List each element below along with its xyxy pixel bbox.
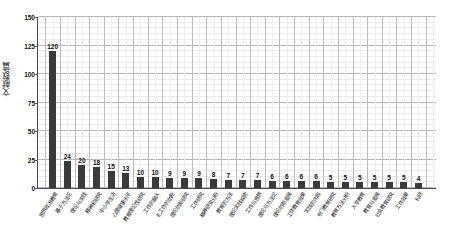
gridline-minor-horizontal <box>38 107 436 108</box>
gridline-major-vertical <box>206 17 207 188</box>
bar[interactable] <box>239 180 246 188</box>
bar-value-label: 15 <box>108 163 115 170</box>
y-tick-mark <box>35 74 38 75</box>
gridline-minor-horizontal <box>38 96 436 97</box>
bar-chart: 文献数/篇 0255075100125150 12024201815131010… <box>0 0 461 252</box>
gridline-minor-vertical <box>404 17 405 188</box>
bar-value-label: 6 <box>270 173 274 180</box>
gridline-major-vertical <box>367 17 368 188</box>
bar[interactable] <box>93 167 100 188</box>
bar-value-label: 13 <box>122 165 129 172</box>
y-axis-tick-labels: 0255075100125150 <box>16 0 35 252</box>
gridline-minor-horizontal <box>38 84 436 85</box>
gridline-minor-vertical <box>155 17 156 188</box>
gridline-major-vertical <box>426 17 427 188</box>
y-tick-mark <box>35 17 38 18</box>
bar[interactable] <box>108 171 115 188</box>
gridline-minor-horizontal <box>38 90 436 91</box>
gridline-major-horizontal <box>38 130 436 131</box>
bar[interactable] <box>64 161 71 188</box>
bar-value-label: 9 <box>168 170 172 177</box>
gridline-major-vertical <box>382 17 383 188</box>
gridline-minor-vertical <box>345 17 346 188</box>
y-tick-label: 75 <box>19 99 35 106</box>
x-category-label: 思想政治教育 <box>37 191 58 219</box>
gridline-minor-vertical <box>272 17 273 188</box>
bar[interactable] <box>313 181 320 188</box>
bar[interactable] <box>195 178 202 188</box>
bar-value-label: 5 <box>329 174 333 181</box>
gridline-major-horizontal <box>38 102 436 103</box>
gridline-major-horizontal <box>38 73 436 74</box>
gridline-minor-horizontal <box>38 113 436 114</box>
bar-value-label: 9 <box>183 170 187 177</box>
bar[interactable] <box>342 182 349 188</box>
gridline-major-vertical <box>89 17 90 188</box>
gridline-major-vertical <box>309 17 310 188</box>
gridline-major-vertical <box>338 17 339 188</box>
gridline-major-vertical <box>118 17 119 188</box>
gridline-minor-vertical <box>243 17 244 188</box>
gridline-major-vertical <box>162 17 163 188</box>
y-tick-mark <box>35 188 38 189</box>
bar[interactable] <box>327 182 334 188</box>
bar[interactable] <box>225 180 232 188</box>
bar[interactable] <box>181 178 188 188</box>
gridline-minor-horizontal <box>38 124 436 125</box>
gridline-minor-horizontal <box>38 22 436 23</box>
bar[interactable] <box>356 182 363 188</box>
bar[interactable] <box>254 180 261 188</box>
bar[interactable] <box>371 182 378 188</box>
bar[interactable] <box>166 178 173 188</box>
bar[interactable] <box>152 177 159 188</box>
bar-value-label: 10 <box>151 169 158 176</box>
bar[interactable] <box>269 181 276 188</box>
gridline-minor-horizontal <box>38 67 436 68</box>
gridline-major-vertical <box>411 17 412 188</box>
gridline-major-vertical <box>221 17 222 188</box>
gridline-minor-vertical <box>331 17 332 188</box>
gridline-major-vertical <box>279 17 280 188</box>
gridline-major-vertical <box>177 17 178 188</box>
bar-value-label: 24 <box>64 153 71 160</box>
bar-value-label: 5 <box>402 174 406 181</box>
gridline-minor-vertical <box>199 17 200 188</box>
bar[interactable] <box>283 181 290 188</box>
bar-value-label: 4 <box>417 175 421 182</box>
bar[interactable] <box>49 51 56 188</box>
gridline-minor-vertical <box>126 17 127 188</box>
bar[interactable] <box>210 179 217 188</box>
gridline-major-vertical <box>133 17 134 188</box>
y-tick-mark <box>35 131 38 132</box>
y-tick-label: 25 <box>19 156 35 163</box>
bar[interactable] <box>415 183 422 188</box>
bar[interactable] <box>298 181 305 188</box>
gridline-minor-horizontal <box>38 79 436 80</box>
bar[interactable] <box>122 173 129 188</box>
gridline-minor-vertical <box>433 17 434 188</box>
bar-value-label: 9 <box>197 170 201 177</box>
y-tick-mark <box>35 46 38 47</box>
bar[interactable] <box>137 177 144 188</box>
gridline-minor-horizontal <box>38 39 436 40</box>
gridline-major-vertical <box>323 17 324 188</box>
bar[interactable] <box>78 165 85 188</box>
gridline-minor-vertical <box>214 17 215 188</box>
gridline-major-vertical <box>265 17 266 188</box>
bar[interactable] <box>400 182 407 188</box>
x-category-label: 科研 <box>414 191 424 202</box>
gridline-major-vertical <box>236 17 237 188</box>
bar-value-label: 7 <box>241 172 245 179</box>
bar-value-label: 5 <box>373 174 377 181</box>
gridline-major-vertical <box>104 17 105 188</box>
bar[interactable] <box>386 182 393 188</box>
gridline-major-horizontal <box>38 45 436 46</box>
gridline-minor-horizontal <box>38 136 436 137</box>
gridline-major-horizontal <box>38 16 436 17</box>
bar-value-label: 5 <box>387 174 391 181</box>
gridline-minor-vertical <box>375 17 376 188</box>
y-axis-title: 文献数/篇 <box>2 62 16 96</box>
bar-value-label: 10 <box>137 169 144 176</box>
gridline-minor-horizontal <box>38 119 436 120</box>
gridline-minor-horizontal <box>38 50 436 51</box>
